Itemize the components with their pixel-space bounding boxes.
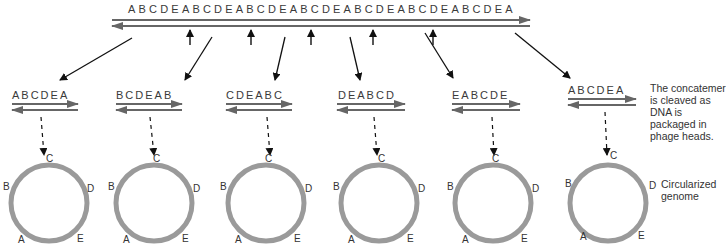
node-label: E bbox=[407, 233, 414, 244]
node-label: C bbox=[610, 150, 617, 161]
node-label: A bbox=[580, 231, 587, 242]
node-label: C bbox=[378, 153, 385, 164]
node-label: E bbox=[182, 233, 189, 244]
fragment-sequence: BCDEAB bbox=[116, 89, 173, 101]
node-label: D bbox=[418, 183, 425, 194]
node-label: B bbox=[447, 181, 454, 192]
node-label: B bbox=[108, 181, 115, 192]
node-label: C bbox=[492, 153, 499, 164]
circularization-arrows bbox=[41, 112, 607, 155]
genome-circles bbox=[11, 165, 646, 241]
node-label: C bbox=[265, 153, 272, 164]
fragment-sequence: DEABCD bbox=[338, 89, 396, 101]
node-label: C bbox=[46, 153, 53, 164]
node-label: B bbox=[565, 178, 572, 189]
node-label: B bbox=[333, 181, 340, 192]
concatemer-sequence: ABCDEABCDEABCDEABCDEABCDEABCDEABCDEA bbox=[128, 3, 516, 15]
packaging-arrows bbox=[60, 33, 570, 80]
fragment-sequence: ABCDEA bbox=[12, 89, 69, 101]
node-label: C bbox=[153, 153, 160, 164]
cleavage-site-arrows bbox=[190, 30, 433, 45]
fragment-sequence: CDEABC bbox=[226, 89, 284, 101]
node-label: D bbox=[532, 183, 539, 194]
node-label: B bbox=[3, 181, 10, 192]
node-label: E bbox=[77, 233, 84, 244]
fragment-sequence: ABCDEA bbox=[568, 84, 625, 96]
node-label: A bbox=[235, 234, 242, 245]
node-label: E bbox=[638, 230, 645, 241]
cleavage-note: The concatemer is cleaved as DNA is pack… bbox=[650, 82, 726, 142]
fragment-strands bbox=[12, 99, 636, 110]
diagram-canvas bbox=[0, 0, 726, 246]
node-label: D bbox=[649, 180, 656, 191]
node-label: A bbox=[462, 234, 469, 245]
node-label: A bbox=[348, 234, 355, 245]
node-label: E bbox=[521, 233, 528, 244]
node-label: D bbox=[305, 183, 312, 194]
node-label: A bbox=[18, 234, 25, 245]
node-label: A bbox=[123, 234, 130, 245]
node-label: D bbox=[87, 183, 94, 194]
node-label: B bbox=[220, 181, 227, 192]
concatemer-strands bbox=[112, 20, 530, 26]
fragment-sequence: EABCDE bbox=[452, 89, 509, 101]
node-label: E bbox=[294, 233, 301, 244]
node-label: D bbox=[193, 183, 200, 194]
circle-note: Circularized genome bbox=[661, 178, 726, 202]
